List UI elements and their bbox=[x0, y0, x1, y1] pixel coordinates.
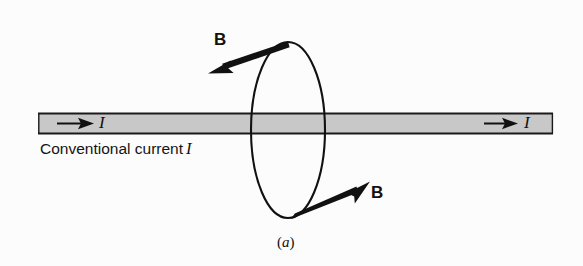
figure-caption: (a) bbox=[277, 235, 295, 250]
conventional-current-symbol: I bbox=[183, 139, 192, 158]
field-vector-label-top: B bbox=[214, 31, 226, 48]
current-label-left: I bbox=[99, 114, 105, 131]
current-label-right: I bbox=[524, 114, 530, 131]
figure-caption-letter: a bbox=[282, 234, 290, 250]
figure-caption-close: ) bbox=[290, 234, 295, 250]
physics-figure-magnetic-field-around-wire: B B I I Conventional currentI (a) bbox=[0, 0, 583, 266]
field-vector-label-bottom: B bbox=[371, 184, 383, 201]
figure-graphics bbox=[0, 0, 583, 266]
conventional-current-label: Conventional currentI bbox=[40, 141, 192, 158]
field-vector-arrow-bottom bbox=[291, 181, 370, 219]
wire-band bbox=[38, 113, 553, 134]
conventional-current-text: Conventional current bbox=[40, 140, 183, 157]
